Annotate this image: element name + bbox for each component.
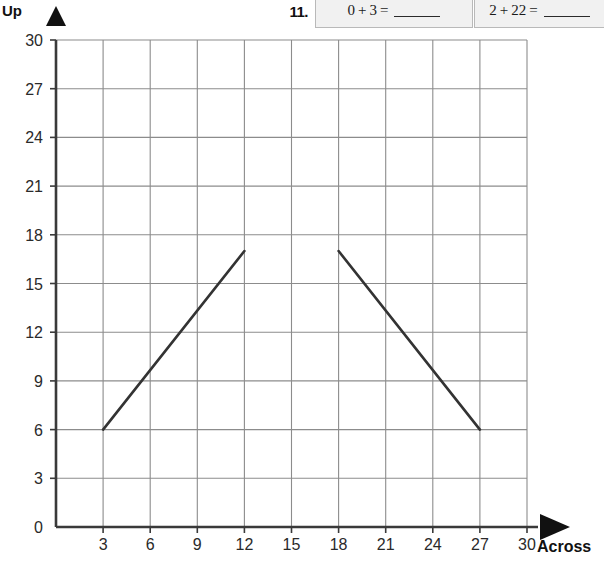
- x-axis-arrow-icon: [540, 514, 570, 540]
- grid-lines: [56, 40, 527, 527]
- y-tick-label: 12: [25, 324, 43, 341]
- y-tick-label: 27: [25, 81, 43, 98]
- y-tick-label: 9: [34, 373, 43, 390]
- y-tick-label: 30: [25, 32, 43, 49]
- data-line-descending-segment: [339, 251, 480, 430]
- x-tick-label: 27: [471, 536, 489, 553]
- y-tick-label: 6: [34, 422, 43, 439]
- x-tick-label: 6: [146, 536, 155, 553]
- y-tick-label: 24: [25, 129, 43, 146]
- x-tick-label: 15: [283, 536, 301, 553]
- x-tick-label: 21: [377, 536, 395, 553]
- y-tick-label: 3: [34, 470, 43, 487]
- y-axis-arrow-icon: [46, 6, 66, 26]
- x-tick-label: 9: [193, 536, 202, 553]
- y-tick-label: 18: [25, 227, 43, 244]
- tick-marks: [50, 40, 527, 533]
- y-tick-label: 21: [25, 178, 43, 195]
- y-tick-label: 0: [34, 519, 43, 536]
- x-tick-label: 30: [518, 536, 536, 553]
- y-tick-label: 15: [25, 276, 43, 293]
- x-tick-labels: 36912151821242730: [99, 536, 536, 553]
- x-tick-label: 3: [99, 536, 108, 553]
- x-tick-label: 24: [424, 536, 442, 553]
- axis-lines: [46, 6, 570, 540]
- y-tick-labels: 302724211815129630: [25, 32, 43, 536]
- x-tick-label: 18: [330, 536, 348, 553]
- data-line-ascending-segment: [103, 251, 244, 430]
- x-tick-label: 12: [236, 536, 254, 553]
